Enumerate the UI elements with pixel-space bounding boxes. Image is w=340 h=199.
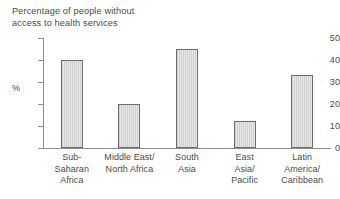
x-axis-category-label: Latin America/ Caribbean	[266, 152, 338, 187]
bar	[176, 49, 198, 148]
bar	[118, 104, 140, 148]
bar-chart-figure: Percentage of people without access to h…	[0, 0, 340, 199]
bar	[61, 60, 83, 148]
y-axis-label: %	[12, 84, 20, 93]
x-axis-line	[43, 148, 331, 149]
bars-layer	[43, 38, 331, 148]
x-axis-tick-labels: Sub- Saharan AfricaMiddle East/ North Af…	[43, 152, 331, 198]
bar	[291, 75, 313, 148]
chart-title: Percentage of people without access to h…	[12, 5, 312, 30]
bar	[234, 121, 256, 149]
